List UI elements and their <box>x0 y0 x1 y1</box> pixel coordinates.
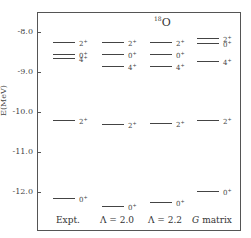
spin-parity-label: 2+ <box>128 120 137 130</box>
y-tick <box>37 72 41 73</box>
spin-parity-label: 0+ <box>223 187 232 197</box>
energy-level <box>102 66 124 67</box>
energy-level <box>53 120 75 121</box>
spin-parity-label: 2+ <box>176 119 185 129</box>
y-tick <box>37 32 41 33</box>
spin-parity-label: 2+ <box>128 38 137 48</box>
spin-parity-label: 4+ <box>128 62 137 72</box>
spin-parity-label: 0+ <box>128 202 137 212</box>
element-symbol: O <box>162 16 171 29</box>
energy-level <box>150 202 172 203</box>
energy-level <box>102 42 124 43</box>
energy-level <box>150 54 172 55</box>
spin-parity-label: 2+ <box>79 38 88 48</box>
energy-level <box>197 61 219 62</box>
spin-parity-label: 4+ <box>79 54 88 64</box>
chart-title: 18O <box>154 15 171 29</box>
spin-parity-label: 0+ <box>176 198 185 208</box>
spin-parity-label: 0+ <box>176 50 185 60</box>
spin-parity-label: 0+ <box>128 50 137 60</box>
y-tick-label: -11.0 <box>0 148 33 156</box>
energy-level <box>102 124 124 125</box>
y-tick-label: -10.0 <box>0 108 33 116</box>
y-tick-label: -9.0 <box>0 68 33 76</box>
spin-parity-label: 2+ <box>223 116 232 126</box>
y-tick <box>37 192 41 193</box>
spin-parity-label: 2+ <box>79 116 88 126</box>
energy-level <box>150 66 172 67</box>
energy-level <box>197 120 219 121</box>
column-label: G matrix <box>187 215 237 225</box>
energy-level <box>102 206 124 207</box>
energy-level <box>197 38 219 39</box>
y-tick-label: -8.0 <box>0 28 33 36</box>
y-tick-label: -12.0 <box>0 188 33 196</box>
energy-level <box>53 42 75 43</box>
energy-level <box>53 54 75 55</box>
spin-parity-label: 0+ <box>223 39 232 49</box>
energy-level <box>197 43 219 44</box>
y-tick <box>37 112 41 113</box>
spin-parity-label: 0+ <box>79 194 88 204</box>
energy-level <box>150 42 172 43</box>
spin-parity-label: 4+ <box>223 57 232 67</box>
spin-parity-label: 4+ <box>176 62 185 72</box>
energy-level <box>53 198 75 199</box>
column-label: Λ = 2.2 <box>140 215 190 225</box>
column-label: Expt. <box>43 215 93 225</box>
y-tick <box>37 152 41 153</box>
energy-level <box>102 54 124 55</box>
column-label: Λ = 2.0 <box>92 215 142 225</box>
spin-parity-label: 2+ <box>176 38 185 48</box>
energy-level <box>53 58 75 59</box>
mass-number: 18 <box>154 15 162 22</box>
energy-level <box>197 191 219 192</box>
energy-level <box>150 123 172 124</box>
